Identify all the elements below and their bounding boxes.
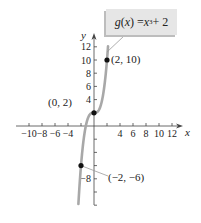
y-tick-label: 4 xyxy=(86,94,91,105)
y-tick-label: 6 xyxy=(86,81,91,92)
x-tick-labels: −10−8−6−44681012 xyxy=(21,128,177,139)
x-tick-label: 8 xyxy=(144,128,149,139)
x-axis-label: x xyxy=(184,126,190,138)
constant: + 2 xyxy=(153,15,169,30)
point-label-0-2: (0, 2) xyxy=(48,96,72,109)
data-point xyxy=(78,163,83,168)
x-tick-label: 4 xyxy=(118,128,123,139)
function-label-leader xyxy=(107,36,124,52)
point-label-2-10: (2, 10) xyxy=(111,53,141,66)
x-tick-label: −6 xyxy=(50,128,61,139)
x-tick-label: 12 xyxy=(167,128,177,139)
y-tick-label: −8 xyxy=(80,173,91,184)
x-ticks xyxy=(29,123,172,126)
x-tick-label: −4 xyxy=(63,128,74,139)
y-tick-label: 8 xyxy=(86,68,91,79)
x-tick-label: −10 xyxy=(21,128,37,139)
y-axis-label: y xyxy=(80,29,86,41)
x-tick-label: −8 xyxy=(37,128,48,139)
y-tick-label: 12 xyxy=(81,41,91,52)
x-tick-label: 10 xyxy=(154,128,164,139)
y-tick-label: 10 xyxy=(81,55,91,66)
x-tick-label: 6 xyxy=(131,128,136,139)
data-point xyxy=(91,110,96,115)
data-point xyxy=(104,57,109,62)
function-label-box: g(x) = x3 + 2 xyxy=(106,9,177,35)
equals: ) = xyxy=(130,15,144,30)
point-label-neg2-neg6: (−2, −6) xyxy=(108,171,145,184)
